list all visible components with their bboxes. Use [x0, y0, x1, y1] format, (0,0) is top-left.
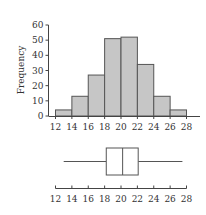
boxplot-x-axis: 121416182022242628 — [50, 186, 193, 204]
x-tick-label: 26 — [164, 122, 176, 132]
boxplot-tick-label: 20 — [115, 194, 127, 204]
y-tick-label: 0 — [38, 111, 44, 121]
boxplot-shape — [64, 148, 183, 175]
x-tick-label: 18 — [99, 122, 111, 132]
histogram-bar — [105, 39, 121, 116]
y-tick-label: 30 — [32, 66, 44, 76]
y-tick-label: 40 — [32, 50, 44, 60]
x-tick-label: 16 — [83, 122, 95, 132]
x-tick-label: 14 — [66, 122, 78, 132]
x-tick-label: 22 — [132, 122, 143, 132]
histogram: 0102030405060 121416182022242628 Frequen… — [16, 20, 200, 132]
boxplot-tick-label: 24 — [148, 194, 160, 204]
boxplot-tick-label: 28 — [181, 194, 193, 204]
x-tick-label: 28 — [181, 122, 193, 132]
histogram-bar — [170, 110, 186, 116]
y-tick-label: 10 — [32, 96, 44, 106]
histogram-bar — [72, 96, 88, 116]
boxplot-tick-label: 22 — [132, 194, 143, 204]
histogram-bar — [137, 64, 153, 116]
boxplot: 121416182022242628 — [50, 148, 193, 204]
histogram-bar — [154, 96, 170, 116]
x-tick-label: 20 — [115, 122, 127, 132]
boxplot-tick-label: 18 — [99, 194, 111, 204]
x-axis: 121416182022242628 — [49, 116, 201, 132]
histogram-bar — [56, 110, 72, 116]
y-tick-label: 50 — [32, 35, 44, 45]
histogram-bar — [121, 37, 137, 116]
histogram-bars — [56, 37, 187, 116]
boxplot-tick-label: 16 — [83, 194, 95, 204]
y-axis-title: Frequency — [16, 45, 26, 95]
y-tick-label: 60 — [32, 20, 44, 30]
histogram-boxplot-figure: 0102030405060 121416182022242628 Frequen… — [0, 0, 206, 215]
boxplot-tick-label: 12 — [50, 194, 61, 204]
x-tick-label: 24 — [148, 122, 160, 132]
boxplot-tick-label: 14 — [66, 194, 78, 204]
x-tick-label: 12 — [50, 122, 61, 132]
y-tick-label: 20 — [32, 81, 44, 91]
y-axis: 0102030405060 — [32, 20, 48, 121]
histogram-bar — [88, 75, 104, 116]
boxplot-tick-label: 26 — [164, 194, 176, 204]
